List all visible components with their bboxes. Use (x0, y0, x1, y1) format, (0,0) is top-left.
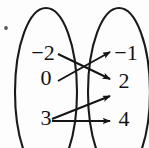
domain-element-labels: −2 0 3 (31, 40, 54, 130)
scan-speck-icon (4, 26, 8, 30)
domain-element-neg2: −2 (31, 40, 54, 65)
mapping-arrow-3-to-2 (52, 96, 110, 119)
mapping-diagram-figure: −2 0 3 −1 2 4 (0, 0, 149, 148)
range-element-4: 4 (119, 106, 130, 131)
domain-element-3: 3 (41, 105, 52, 130)
mapping-arrows-group (52, 52, 110, 121)
range-element-2: 2 (119, 68, 130, 93)
range-element-labels: −1 2 4 (114, 40, 137, 131)
mapping-diagram-canvas: −2 0 3 −1 2 4 (0, 0, 149, 148)
range-element-neg1: −1 (114, 40, 137, 65)
domain-element-0: 0 (41, 65, 52, 90)
mapping-arrow-0-to-neg1 (58, 52, 110, 81)
